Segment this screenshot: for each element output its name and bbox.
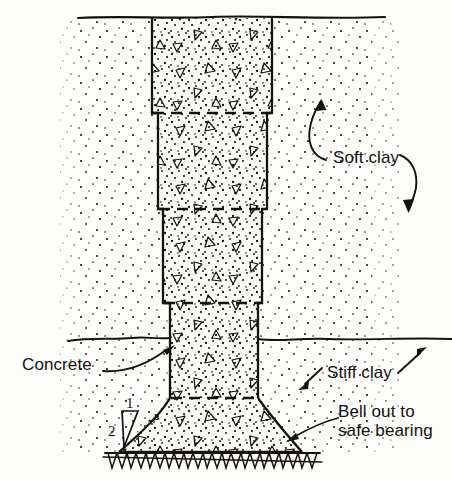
slope-run-label: 2 (108, 424, 116, 439)
concrete-label: Concrete (22, 355, 92, 374)
ground-surface-line (78, 16, 385, 18)
stiff-clay-label: Stiff clay (327, 363, 392, 382)
slope-rise-label: 1 (126, 396, 134, 411)
bell-callout-line1: Bell out to (338, 402, 415, 421)
soft-clay-arrow-down (400, 155, 416, 213)
stiff-clay-arrow-right (398, 347, 427, 373)
diagram-canvas: Soft clay Stiff clay Concrete Bell out t… (0, 0, 452, 480)
bearing-stratum-hatch (103, 453, 322, 468)
soft-clay-label: Soft clay (333, 148, 399, 167)
bell-callout-line2: safe bearing (338, 421, 433, 440)
